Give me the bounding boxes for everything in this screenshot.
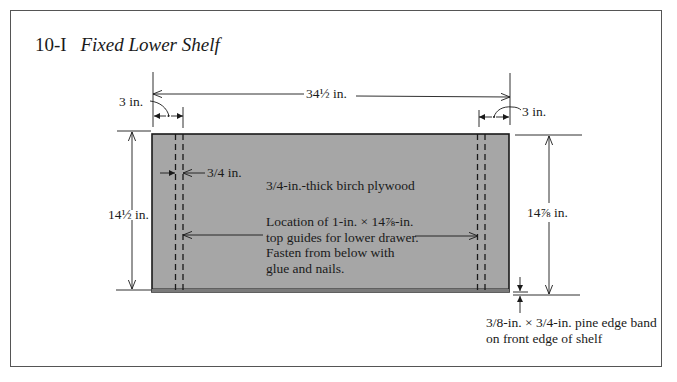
edge-band-note-line-1: 3/8-in. × 3/4-in. pine edge band bbox=[486, 315, 657, 331]
guide-length-label: 14⅞ in. bbox=[527, 205, 568, 221]
overall-depth-label: 14½ in. bbox=[108, 207, 149, 223]
guide-note-line-4: glue and nails. bbox=[266, 261, 419, 277]
right-offset-label: 3 in. bbox=[522, 104, 546, 120]
guide-note-line-3: Fasten from below with bbox=[266, 245, 419, 261]
left-offset-dimension bbox=[150, 101, 183, 128]
guide-note-line-1: Location of 1-in. × 14⅞-in. bbox=[266, 214, 419, 230]
edge-band-note: 3/8-in. × 3/4-in. pine edge band on fron… bbox=[486, 315, 657, 346]
edge-band-note-line-2: on front edge of shelf bbox=[486, 331, 657, 347]
left-offset-label: 3 in. bbox=[119, 94, 143, 110]
right-offset-dimension bbox=[479, 107, 521, 127]
guide-width-label: 3/4 in. bbox=[207, 165, 242, 181]
material-note: 3/4-in.-thick birch plywood bbox=[266, 178, 415, 194]
overall-width-label: 34½ in. bbox=[306, 86, 347, 102]
guide-note: Location of 1-in. × 14⅞-in. top guides f… bbox=[266, 214, 419, 276]
guide-note-line-2: top guides for lower drawer. bbox=[266, 230, 419, 246]
